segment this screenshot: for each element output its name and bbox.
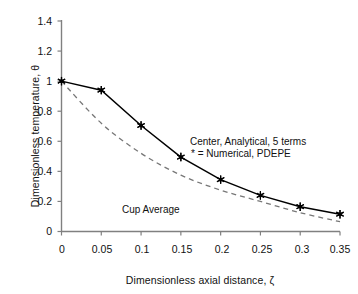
x-tick-label-0.05: 0.05	[82, 243, 122, 255]
y-tick-label-1: 1	[18, 75, 52, 87]
y-tick-label-0: 0	[18, 225, 52, 237]
y-tick-label-0.4: 0.4	[18, 165, 52, 177]
x-axis-title: Dimensionless axial distance, ζ	[55, 274, 345, 286]
data-point-marker	[217, 175, 224, 183]
y-tick-label-1.4: 1.4	[18, 15, 52, 27]
x-tick-label-0.25: 0.25	[242, 243, 282, 255]
y-tick-label-0.2: 0.2	[18, 195, 52, 207]
y-tick-label-1.2: 1.2	[18, 45, 52, 57]
center-annotation-line2: * = Numerical, PDEPE	[191, 148, 291, 159]
chart-figure: Dimensionless temperature, θ Dimensionle…	[0, 0, 358, 294]
x-tick-label-0.35: 0.35	[320, 243, 358, 255]
y-tick-label-0.8: 0.8	[18, 105, 52, 117]
cup-average-annotation: Cup Average	[122, 204, 180, 215]
x-tick-label-0.1: 0.1	[122, 243, 162, 255]
x-tick-label-0: 0	[42, 243, 82, 255]
y-tick-label-0.6: 0.6	[18, 135, 52, 147]
x-tick-label-0.15: 0.15	[162, 243, 202, 255]
center-annotation-line1: Center, Analytical, 5 terms	[190, 136, 306, 147]
x-tick-label-0.3: 0.3	[282, 243, 322, 255]
x-tick-label-0.2: 0.2	[202, 243, 242, 255]
